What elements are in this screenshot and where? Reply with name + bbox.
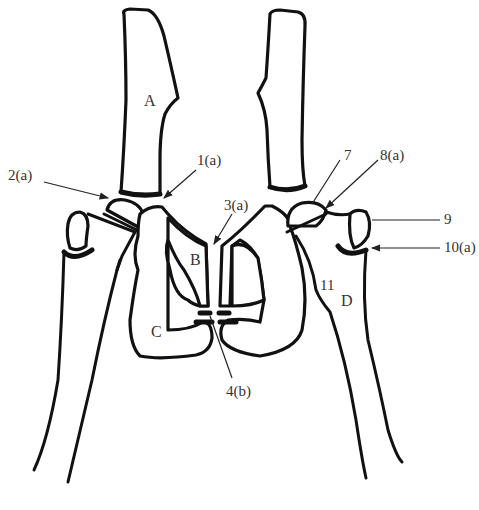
- label-8a: 8(a): [380, 147, 404, 164]
- right-femur-outer: [364, 250, 402, 462]
- arrow-2a: [44, 182, 108, 198]
- left-greater-trochanter: [67, 212, 88, 250]
- label-10a: 10(a): [444, 239, 476, 256]
- arrow-7: [312, 160, 340, 204]
- right-femur-inner: [296, 236, 366, 478]
- arrow-1a: [164, 170, 196, 198]
- right-neck: [326, 212, 350, 215]
- label-3a: 3(a): [224, 197, 248, 214]
- label-4b: 4(b): [226, 383, 251, 400]
- label-7: 7: [344, 147, 352, 163]
- label-9: 9: [444, 211, 452, 227]
- arrow-8a: [326, 160, 378, 208]
- region-letter-c: C: [151, 323, 162, 340]
- label-11: 11: [320, 277, 334, 293]
- region-letter-b: B: [190, 251, 201, 268]
- region-letter-a: A: [144, 92, 156, 109]
- left-femur-outer: [34, 252, 64, 470]
- left-femur-inner: [68, 260, 120, 482]
- label-2a: 2(a): [8, 167, 32, 184]
- right-greater-trochanter: [350, 210, 370, 248]
- hip-joint-diagram: A B C D 2(a) 1(a) 3(a) 4(b) 7 8(a) 9 10(…: [0, 0, 479, 510]
- region-letter-d: D: [341, 292, 353, 309]
- label-1a: 1(a): [197, 152, 221, 169]
- right-upper-bone: [258, 10, 305, 189]
